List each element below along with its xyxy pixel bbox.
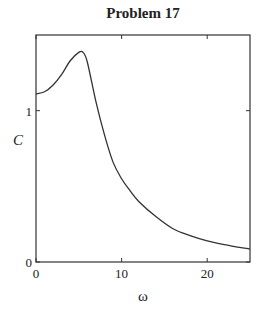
- x-tick-label: 10: [115, 266, 128, 281]
- y-axis-label: C: [13, 132, 24, 148]
- x-axis-label: ω: [138, 288, 148, 304]
- axis-ticks: [36, 35, 250, 262]
- data-line: [36, 51, 250, 249]
- x-tick-label: 0: [33, 266, 40, 281]
- y-tick-label: 0: [26, 255, 33, 270]
- chart-canvas: 0102001 ω C: [0, 0, 264, 309]
- plot-frame: [36, 35, 250, 262]
- x-tick-label: 20: [201, 266, 214, 281]
- y-tick-label: 1: [26, 104, 33, 119]
- tick-labels: 0102001: [26, 104, 214, 281]
